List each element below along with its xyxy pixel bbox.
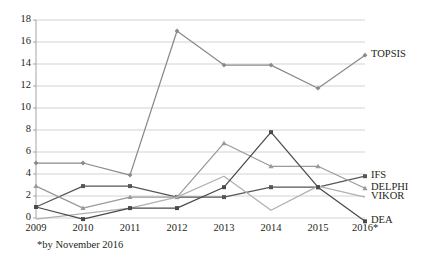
series-label-dea: DEA: [371, 214, 393, 225]
data-point-marker: [316, 185, 320, 189]
series-line-topsis: [36, 31, 365, 175]
y-axis-tick-label: 18: [5, 13, 31, 24]
series-label-vikor: VIKOR: [371, 190, 404, 201]
x-axis-tick-label: 2010: [61, 222, 105, 233]
data-point-marker: [269, 63, 274, 68]
plot-area: [0, 0, 422, 257]
x-axis-tick-label: 2013: [202, 222, 246, 233]
x-axis-tick-label: 2009: [14, 222, 58, 233]
data-point-marker: [222, 185, 226, 189]
data-point-marker: [128, 173, 133, 178]
series-line-ifs: [36, 176, 365, 207]
y-axis-tick-label: 4: [5, 167, 31, 178]
y-axis-tick-label: 10: [5, 101, 31, 112]
data-point-marker: [221, 141, 226, 146]
data-point-marker: [81, 217, 85, 221]
x-axis-tick-label: 2015: [296, 222, 340, 233]
series-line-delphi: [36, 143, 365, 208]
series-label-ifs: IFS: [371, 169, 386, 180]
data-point-marker: [128, 206, 132, 210]
y-axis-tick-label: 6: [5, 145, 31, 156]
data-point-marker: [175, 206, 179, 210]
x-axis-tick-label: 2014: [249, 222, 293, 233]
data-point-marker: [81, 161, 86, 166]
data-point-marker: [33, 184, 38, 189]
y-axis-tick-label: 0: [5, 211, 31, 222]
x-axis-tick-label: 2012: [155, 222, 199, 233]
y-axis-tick-label: 12: [5, 79, 31, 90]
series-label-topsis: TOPSIS: [371, 48, 406, 59]
line-chart: 1816141210864202009201020112012201320142…: [0, 0, 422, 257]
x-axis-tick-label: 2011: [108, 222, 152, 233]
data-point-marker: [34, 161, 39, 166]
data-point-marker: [269, 130, 273, 134]
data-point-marker: [222, 195, 226, 199]
y-axis-tick-label: 8: [5, 123, 31, 134]
data-point-marker: [81, 184, 85, 188]
y-axis-tick-label: 2: [5, 189, 31, 200]
data-point-marker: [363, 174, 367, 178]
chart-footnote: *by November 2016: [37, 239, 123, 250]
data-point-marker: [269, 185, 273, 189]
data-point-marker: [34, 205, 38, 209]
y-axis-tick-label: 14: [5, 57, 31, 68]
data-point-marker: [128, 184, 132, 188]
y-axis-tick-label: 16: [5, 35, 31, 46]
